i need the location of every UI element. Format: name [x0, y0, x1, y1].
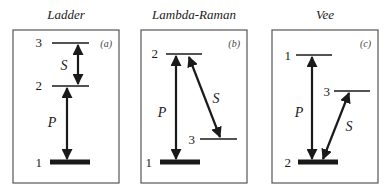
level-label: 1	[36, 155, 43, 170]
level-label: 1	[285, 48, 292, 63]
stokes-label: S	[213, 91, 220, 106]
level-label: 3	[36, 35, 43, 50]
pump-label: P	[294, 105, 304, 120]
panel-title: Lambda-Raman	[151, 7, 236, 22]
level-label: 2	[152, 46, 159, 61]
panel-tag: (c)	[360, 38, 372, 50]
pump-label: P	[47, 115, 57, 130]
panel-ladder: Ladder (a) 3 2 1 S P	[13, 7, 119, 183]
stokes-label: S	[61, 58, 68, 73]
panel-title: Vee	[316, 7, 334, 22]
panel-lambda-raman: Lambda-Raman (b) 2 3 1 P S	[141, 7, 247, 183]
stokes-label: S	[346, 119, 353, 134]
level-label: 3	[324, 84, 331, 99]
pump-label: P	[157, 105, 167, 120]
level-label: 2	[285, 155, 292, 170]
panel-vee: Vee (c) 1 3 2 P S	[272, 7, 378, 183]
level-label: 2	[36, 78, 43, 93]
panel-tag: (a)	[100, 38, 112, 50]
panel-title: Ladder	[46, 7, 86, 22]
three-level-systems-diagram: Ladder (a) 3 2 1 S P Lambda-Raman (b) 2 …	[0, 0, 390, 190]
panel-tag: (b)	[228, 38, 240, 50]
level-label: 1	[146, 155, 153, 170]
level-label: 3	[189, 132, 196, 147]
